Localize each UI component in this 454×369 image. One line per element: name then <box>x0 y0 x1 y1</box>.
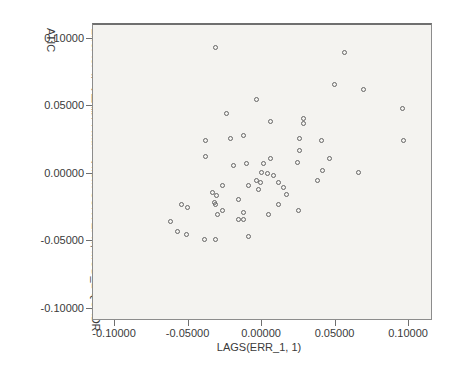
y-axis-tick-label: -0.10000 <box>40 302 84 314</box>
x-axis-title: LAGS(ERR_1, 1) <box>189 341 329 353</box>
data-point-marker <box>203 138 208 143</box>
data-point-marker <box>179 202 184 207</box>
x-axis-tick-mark <box>261 320 262 326</box>
data-point-marker <box>276 202 281 207</box>
data-point-marker <box>168 219 173 224</box>
x-axis-tick-label: 0.10000 <box>378 327 438 339</box>
x-axis-tick-mark <box>114 320 115 326</box>
data-point-marker <box>361 87 366 92</box>
x-axis-tick-label: -0.10000 <box>84 327 144 339</box>
scatter-chart: Error for 每小時薪資 with 月 from CURVEFIT, MO… <box>0 0 454 369</box>
data-point-marker <box>295 160 300 165</box>
y-axis-tick-label: 0.05000 <box>40 99 84 111</box>
y-axis-tick-label: 0.00000 <box>40 167 84 179</box>
data-point-marker <box>268 119 273 124</box>
data-point-marker <box>401 138 406 143</box>
x-axis-tick-mark <box>335 320 336 326</box>
data-point-marker <box>356 170 361 175</box>
data-point-marker <box>213 237 218 242</box>
x-axis-tick-label: 0.00000 <box>231 327 291 339</box>
data-point-marker <box>268 156 273 161</box>
data-point-marker <box>281 185 286 190</box>
y-axis-tick-mark <box>86 38 92 39</box>
y-axis-tick-mark <box>86 173 92 174</box>
data-point-marker <box>320 168 325 173</box>
x-axis-tick-label: 0.05000 <box>305 327 365 339</box>
data-point-marker <box>301 116 306 121</box>
x-axis-tick-label: -0.05000 <box>158 327 218 339</box>
data-point-marker <box>271 173 276 178</box>
y-axis-tick-label: -0.05000 <box>40 234 84 246</box>
y-axis-tick-mark <box>86 308 92 309</box>
data-point-marker <box>202 237 207 242</box>
data-point-marker <box>297 136 302 141</box>
x-axis-tick-mark <box>188 320 189 326</box>
data-point-marker <box>297 148 302 153</box>
y-axis-tick-mark <box>86 105 92 106</box>
data-point-marker <box>213 202 218 207</box>
y-axis-tick-mark <box>86 240 92 241</box>
x-axis-tick-mark <box>408 320 409 326</box>
data-point-marker <box>266 212 271 217</box>
data-point-marker <box>231 163 236 168</box>
y-axis-title-line2: ATIC <box>43 28 58 332</box>
y-axis-tick-label: 0.10000 <box>40 32 84 44</box>
